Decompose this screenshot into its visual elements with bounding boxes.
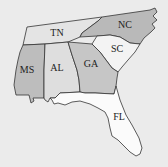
label-ms: MS <box>20 64 34 75</box>
label-nc: NC <box>118 19 132 30</box>
label-al: AL <box>50 62 63 73</box>
state-fl[interactable] <box>50 86 142 156</box>
label-ga: GA <box>84 58 99 69</box>
label-sc: SC <box>111 43 124 54</box>
southeast-map: TN NC SC MS AL GA FL <box>0 0 168 167</box>
label-fl: FL <box>113 111 125 122</box>
label-tn: TN <box>50 27 63 38</box>
